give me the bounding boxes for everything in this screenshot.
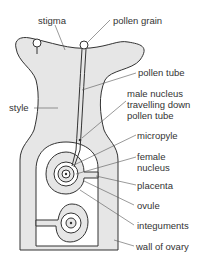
pollen-grain-right	[80, 41, 88, 49]
label-placenta: placenta	[137, 180, 173, 191]
label-male-nucleus-line3: pollen tube	[127, 110, 173, 121]
male-nucleus	[79, 139, 82, 142]
label-male-nucleus-line2: travelling down	[127, 99, 190, 110]
label-style: style	[9, 102, 29, 113]
label-pollen-tube: pollen tube	[138, 67, 184, 78]
label-micropyle: micropyle	[137, 130, 178, 141]
label-stigma: stigma	[38, 15, 66, 26]
label-ovule: ovule	[137, 200, 160, 211]
label-male-nucleus-line1: male nucleus	[127, 88, 183, 99]
label-integuments: integuments	[137, 220, 189, 231]
label-female-nucleus-line2: nucleus	[137, 162, 170, 173]
label-wall-of-ovary: wall of ovary	[136, 241, 189, 252]
label-female-nucleus-line1: female	[137, 151, 166, 162]
label-pollen-grain: pollen grain	[113, 15, 162, 26]
